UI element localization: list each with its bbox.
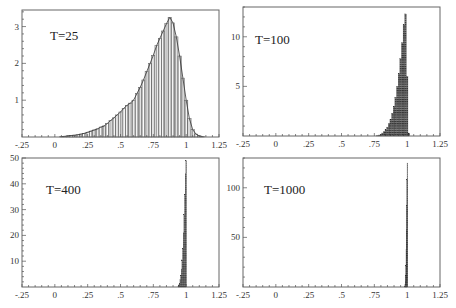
y-tick-label: 2 — [15, 58, 20, 68]
panel-annotation: T=400 — [46, 182, 81, 197]
histogram-bar — [396, 86, 398, 136]
histogram-bar — [165, 24, 168, 137]
y-tick-label: 50 — [231, 232, 241, 242]
histogram-bar — [106, 123, 109, 137]
y-axis: 50100 — [227, 158, 248, 277]
x-tick-label: 0 — [53, 140, 58, 150]
x-tick-label: .5 — [117, 290, 124, 300]
x-axis: -.250.25.5.7511.25 — [15, 284, 228, 300]
y-tick-label: 20 — [10, 230, 20, 240]
histogram-bar — [135, 94, 138, 137]
x-tick-label: -.25 — [236, 290, 251, 300]
x-tick-label: -.25 — [236, 139, 251, 149]
histogram-bar — [383, 132, 385, 136]
x-tick-label: 1.25 — [432, 139, 448, 149]
x-tick-label: 0 — [53, 290, 58, 300]
y-tick-label: 1 — [15, 95, 20, 105]
x-tick-label: 1 — [405, 139, 410, 149]
x-tick-label: 1 — [405, 290, 410, 300]
x-tick-label: .25 — [303, 290, 315, 300]
histogram-bar — [175, 37, 178, 137]
panel-t-100: -.250.25.5.7511.25510T=100 — [231, 7, 448, 149]
panel-annotation: T=1000 — [264, 182, 305, 197]
y-axis: 123 — [15, 12, 27, 130]
y-axis: 510 — [231, 7, 247, 126]
x-tick-label: 1.25 — [432, 290, 448, 300]
histogram-bar — [132, 100, 135, 137]
x-tick-label: 1 — [184, 140, 189, 150]
histogram-bar — [406, 76, 408, 136]
histogram-bar — [148, 63, 151, 137]
x-tick-label: .25 — [303, 139, 315, 149]
x-tick-label: 0 — [274, 139, 279, 149]
y-tick-label: 40 — [10, 179, 20, 189]
panel-annotation: T=25 — [50, 28, 78, 43]
x-tick-label: 1 — [184, 290, 189, 300]
histogram-bar — [395, 97, 397, 136]
histogram-bar — [168, 17, 171, 137]
y-tick-label: 5 — [236, 81, 241, 91]
histogram-bar — [186, 161, 187, 287]
panel-t-400: -.250.25.5.7511.251020304050T=400 — [10, 153, 227, 300]
y-tick-label: 10 — [231, 32, 241, 42]
x-tick-label: .5 — [338, 290, 345, 300]
bars — [377, 14, 410, 136]
x-tick-label: 1.25 — [211, 290, 227, 300]
histogram-bar — [102, 126, 105, 137]
x-tick-label: .75 — [369, 290, 381, 300]
bars — [178, 161, 187, 287]
histogram-bar — [405, 14, 407, 136]
histogram-bar — [129, 103, 132, 137]
plot-frame — [243, 158, 440, 287]
histogram-bar — [392, 113, 394, 136]
x-tick-label: .75 — [369, 139, 381, 149]
histogram-bar — [155, 46, 158, 137]
plot-frame — [243, 7, 440, 136]
x-tick-label: .5 — [338, 139, 345, 149]
histogram-bar — [403, 25, 405, 136]
histogram-bar — [112, 118, 115, 137]
x-tick-label: 1.25 — [211, 140, 227, 150]
histogram-bar — [398, 73, 400, 136]
y-axis: 1020304050 — [10, 153, 26, 282]
histogram-bar — [145, 71, 148, 137]
x-axis: -.250.25.5.7511.25 — [236, 284, 449, 300]
histogram-bar — [125, 105, 128, 137]
histogram-bar — [109, 120, 112, 137]
plot-frame — [22, 158, 219, 287]
histogram-bar — [407, 163, 408, 287]
x-tick-label: .75 — [148, 140, 160, 150]
x-tick-label: .5 — [117, 140, 124, 150]
histogram-bar — [390, 119, 392, 136]
histogram-bar — [139, 87, 142, 137]
x-tick-label: .75 — [148, 290, 160, 300]
histogram-bar — [162, 31, 165, 137]
y-tick-label: 10 — [10, 256, 20, 266]
panel-annotation: T=100 — [255, 32, 290, 47]
x-tick-label: -.25 — [15, 140, 30, 150]
histogram-bar — [393, 106, 395, 136]
y-tick-label: 3 — [15, 22, 20, 32]
histogram-figure: -.250.25.5.7511.25123T=25-.250.25.5.7511… — [0, 0, 456, 308]
histogram-bar — [158, 38, 161, 137]
x-tick-label: -.25 — [15, 290, 30, 300]
histogram-bar — [96, 129, 99, 137]
histogram-bar — [142, 80, 145, 137]
histogram-bar — [401, 43, 403, 136]
y-tick-label: 100 — [227, 183, 241, 193]
histogram-bar — [122, 108, 125, 137]
histogram-bar — [388, 124, 390, 136]
histogram-bar — [89, 131, 92, 137]
histogram-bar — [171, 23, 174, 137]
histogram-bar — [116, 115, 119, 137]
x-tick-label: 0 — [274, 290, 279, 300]
x-axis: -.250.25.5.7511.25 — [236, 133, 449, 149]
y-tick-label: 30 — [10, 205, 20, 215]
histogram-bar — [152, 55, 155, 137]
histogram-bar — [178, 56, 181, 137]
histogram-bar — [400, 59, 402, 136]
histogram-bar — [385, 130, 387, 136]
panel-t-1000: -.250.25.5.7511.2550100T=1000 — [227, 158, 449, 300]
y-tick-label: 50 — [10, 153, 20, 163]
x-tick-label: .25 — [82, 140, 94, 150]
